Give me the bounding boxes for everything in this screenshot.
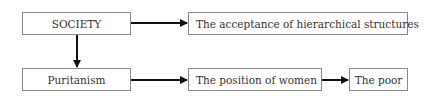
node-hierarchy-label: The acceptance of hierarchical structure… <box>196 18 419 30</box>
node-puritanism: Puritanism <box>22 68 131 91</box>
node-women-label: The position of women <box>196 74 317 86</box>
node-poor: The poor <box>349 68 408 91</box>
node-women: The position of women <box>188 68 322 91</box>
node-puritanism-label: Puritanism <box>47 74 105 86</box>
node-hierarchy: The acceptance of hierarchical structure… <box>188 12 408 35</box>
node-society-label: SOCIETY <box>52 18 102 30</box>
node-society: SOCIETY <box>22 12 131 35</box>
node-poor-label: The poor <box>355 74 403 86</box>
